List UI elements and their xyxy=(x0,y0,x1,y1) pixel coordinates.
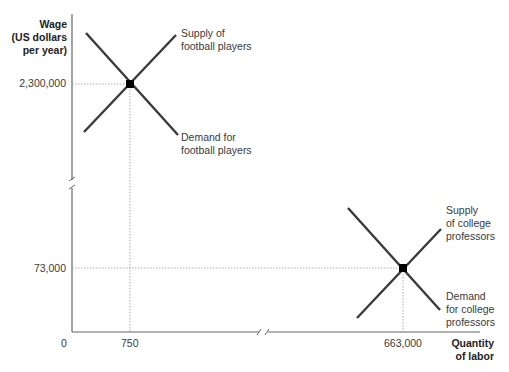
x-axis-break-icon xyxy=(257,329,269,335)
x-axis-title-line: of labor xyxy=(451,350,494,363)
label-line: football players xyxy=(181,144,252,157)
label-line: football players xyxy=(181,40,252,53)
label-line: Demand for xyxy=(181,131,252,144)
label-line: Supply xyxy=(446,204,495,217)
professors-equilibrium-point xyxy=(399,264,407,272)
y-tick-label: 73,000 xyxy=(34,262,66,275)
y-tick-label: 2,300,000 xyxy=(19,77,66,90)
x-axis-title-line: Quantity xyxy=(451,337,494,350)
label-line: Supply of xyxy=(181,27,252,40)
supply-professors-curve xyxy=(357,229,441,318)
y-axis-title: Wage (US dollars per year) xyxy=(12,18,67,57)
x-tick-label: 663,000 xyxy=(384,337,422,350)
y-axis-title-line: (US dollars xyxy=(12,31,67,44)
label-line: of college xyxy=(446,217,495,230)
demand-professors-curve xyxy=(348,208,440,310)
x-axis-title: Quantity of labor xyxy=(451,337,494,363)
supply-football-label: Supply of football players xyxy=(181,27,252,53)
y-axis-title-line: per year) xyxy=(12,44,67,57)
y-axis-title-line: Wage xyxy=(12,18,67,31)
label-line: professors xyxy=(446,230,495,243)
label-line: Demand xyxy=(446,290,495,303)
chart-canvas xyxy=(0,0,509,372)
x-tick-label: 750 xyxy=(121,337,139,350)
y-axis-break-icon xyxy=(69,177,75,189)
label-line: professors xyxy=(446,316,495,329)
label-line: for college xyxy=(446,303,495,316)
origin-label: 0 xyxy=(61,337,67,350)
demand-football-label: Demand for football players xyxy=(181,131,252,157)
supply-professors-label: Supply of college professors xyxy=(446,204,495,243)
guide-lines xyxy=(72,84,403,332)
football-equilibrium-point xyxy=(126,80,134,88)
demand-professors-label: Demand for college professors xyxy=(446,290,495,329)
